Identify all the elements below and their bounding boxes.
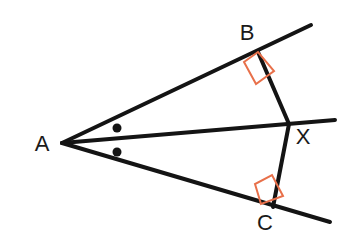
vertex-label-a: A — [35, 131, 50, 156]
congruent-angle-dot-lower — [113, 148, 122, 157]
geometry-diagram: ABXC — [0, 0, 350, 246]
vertex-label-x: X — [296, 124, 311, 149]
vertex-label-b: B — [240, 20, 255, 45]
vertex-label-c: C — [257, 210, 273, 235]
congruent-angle-dot-upper — [113, 124, 122, 133]
geometry-canvas: ABXC — [0, 0, 350, 246]
